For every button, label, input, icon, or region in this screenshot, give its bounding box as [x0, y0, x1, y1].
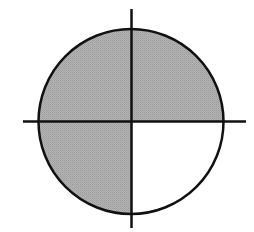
quadrant-bottom-right — [131, 122, 224, 215]
quadrant-circle-diagram — [0, 0, 254, 232]
quadrant-top-right — [131, 29, 224, 122]
quadrant-top-left — [39, 29, 132, 122]
quadrant-bottom-left — [39, 122, 132, 215]
